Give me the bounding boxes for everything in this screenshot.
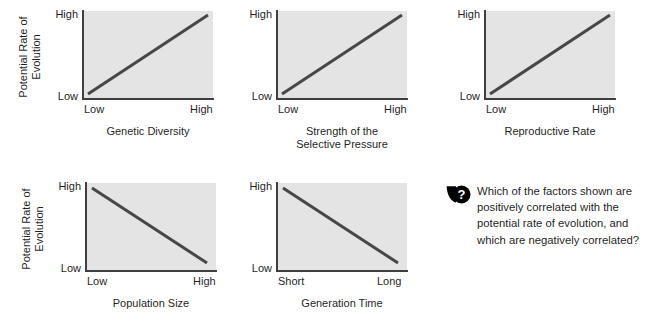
panel-reproductive-rate: High Low Low High Reproductive Rate xyxy=(445,0,647,160)
panel-population-size: Potential Rate of Evolution High Low Low… xyxy=(0,172,230,314)
x-tick-right: High xyxy=(190,103,213,115)
x-tick-left: Short xyxy=(278,275,304,287)
y-tick-high: High xyxy=(40,8,78,20)
x-axis-label: Strength of the Selective Pressure xyxy=(267,125,417,151)
x-tick-right: High xyxy=(384,103,407,115)
y-axis-line xyxy=(484,10,486,99)
y-tick-high: High xyxy=(442,8,480,20)
x-axis-label: Generation Time xyxy=(267,297,417,310)
x-axis-label: Genetic Diversity xyxy=(73,125,223,138)
y-tick-low: Low xyxy=(442,90,480,102)
x-tick-left: Low xyxy=(87,275,107,287)
y-tick-low: Low xyxy=(40,90,78,102)
y-axis-label: Potential Rate of Evolution xyxy=(20,184,46,274)
x-tick-left: Low xyxy=(84,103,104,115)
y-tick-high: High xyxy=(234,8,272,20)
svg-text:?: ? xyxy=(458,187,466,202)
plot-area xyxy=(86,183,216,270)
y-axis-line xyxy=(276,10,278,99)
y-tick-low: Low xyxy=(43,262,81,274)
x-tick-right: High xyxy=(592,103,615,115)
panel-genetic-diversity: Potential Rate of Evolution High Low Low… xyxy=(0,0,230,160)
plot-area xyxy=(277,11,407,98)
plot-area xyxy=(485,11,615,98)
y-axis-label: Potential Rate of Evolution xyxy=(17,12,43,102)
plot-area xyxy=(83,11,213,98)
y-tick-low: Low xyxy=(234,90,272,102)
y-tick-low: Low xyxy=(234,262,272,274)
x-axis-line xyxy=(276,270,408,272)
x-tick-right: High xyxy=(193,275,216,287)
x-tick-right: Long xyxy=(377,275,401,287)
y-axis-line xyxy=(276,182,278,271)
plot-area xyxy=(277,183,407,270)
y-tick-high: High xyxy=(43,180,81,192)
panel-generation-time: High Low Short Long Generation Time xyxy=(230,172,445,314)
question-text: Which of the factors shown are positivel… xyxy=(477,183,643,248)
x-axis-label: Population Size xyxy=(76,297,226,310)
x-tick-left: Low xyxy=(278,103,298,115)
x-axis-line xyxy=(484,98,616,100)
y-axis-line xyxy=(82,10,84,99)
x-tick-left: Low xyxy=(486,103,506,115)
x-axis-line xyxy=(276,98,408,100)
x-axis-label: Reproductive Rate xyxy=(475,125,625,138)
x-axis-line xyxy=(82,98,214,100)
evolution-rate-figure: Potential Rate of Evolution High Low Low… xyxy=(0,0,647,314)
panel-selective-pressure: High Low Low High Strength of the Select… xyxy=(230,0,445,160)
x-axis-line xyxy=(85,270,217,272)
y-tick-high: High xyxy=(234,180,272,192)
question-mark-bubble-icon: ? xyxy=(446,185,472,204)
y-axis-line xyxy=(85,182,87,271)
